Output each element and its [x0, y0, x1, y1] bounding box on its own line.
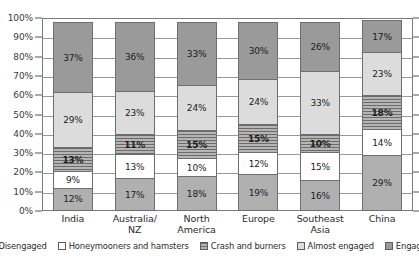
y-axis-tick-label: 100%	[8, 13, 33, 23]
bar-segment-label: 19%	[249, 188, 268, 198]
x-axis-category-label-line1: China	[369, 213, 396, 224]
bar-segment-label: 13%	[62, 155, 83, 165]
y-axis-right-tick-mark	[413, 133, 419, 134]
bar-segment[interactable]: 18%	[362, 95, 402, 130]
bar-segment-label: 12%	[249, 159, 268, 169]
y-axis-right-tick-mark	[413, 153, 419, 154]
legend-label: Disengaged	[0, 241, 47, 251]
y-axis-tick-label: 30%	[13, 148, 33, 158]
bar-segment-label: 15%	[311, 162, 330, 172]
bar-segment[interactable]: 13%	[115, 154, 155, 179]
y-axis-right-tick-mark	[413, 56, 419, 57]
bar-segment[interactable]: 29%	[53, 92, 93, 148]
bar-segment-label: 24%	[249, 97, 268, 107]
bar-segment[interactable]: 30%	[238, 22, 278, 80]
y-axis-tick-mark	[35, 95, 42, 96]
bar-segment-label: 33%	[311, 98, 330, 108]
bar-segment[interactable]: 12%	[238, 152, 278, 175]
bar-segment[interactable]: 16%	[300, 180, 340, 211]
stacked-bar-chart: 100%90%80%70%60%50%40%30%20%10%0% 12%9%1…	[0, 0, 419, 265]
bar-segment[interactable]: 33%	[300, 71, 340, 135]
y-axis: 100%90%80%70%60%50%40%30%20%10%0%	[0, 18, 42, 211]
bar-segment[interactable]: 15%	[238, 124, 278, 153]
bar-segment-label: 37%	[63, 53, 82, 63]
y-axis-right-tick-mark	[413, 75, 419, 76]
bar-segment[interactable]: 19%	[238, 174, 278, 211]
y-axis-tick-mark	[35, 211, 42, 212]
bar-column[interactable]: 29%14%18%23%17%	[362, 18, 402, 211]
chart-legend: DisengagedHoneymooners and hamstersCrash…	[0, 238, 419, 254]
bar-segment-label: 15%	[186, 140, 207, 150]
legend-item[interactable]: Crash and burners	[200, 241, 286, 251]
bar-column[interactable]: 19%12%15%24%30%	[238, 18, 278, 211]
bar-segment-label: 18%	[372, 108, 393, 118]
bar-segment[interactable]: 23%	[115, 91, 155, 135]
legend-item[interactable]: Almost engaged	[297, 241, 374, 251]
bar-column[interactable]: 17%13%11%23%36%	[115, 18, 155, 211]
bar-segment[interactable]: 15%	[300, 152, 340, 181]
bar-segment-label: 17%	[372, 32, 391, 42]
y-axis-right-tick-mark	[413, 37, 419, 38]
y-axis-right-tick-mark	[413, 211, 419, 212]
bar-segment-label: 9%	[66, 175, 80, 185]
y-axis-tick-label: 80%	[13, 52, 33, 62]
bar-segment[interactable]: 29%	[362, 155, 402, 211]
bar-segment[interactable]: 11%	[115, 134, 155, 155]
y-axis-tick-label: 0%	[19, 206, 33, 216]
y-axis-right-tick-mark	[413, 18, 419, 19]
bar-segment[interactable]: 17%	[115, 178, 155, 211]
legend-swatch	[385, 242, 393, 250]
bar-segment[interactable]: 33%	[177, 22, 217, 86]
bar-segment[interactable]: 10%	[300, 134, 340, 153]
y-axis-tick-label: 10%	[13, 187, 33, 197]
bar-segment[interactable]: 24%	[177, 85, 217, 131]
legend-label: Honeymooners and hamsters	[69, 241, 189, 251]
bar-segment-label: 29%	[372, 178, 391, 188]
bar-segment-label: 24%	[187, 103, 206, 113]
x-axis-category-label-line2: America	[166, 224, 228, 235]
x-axis-category-label-line2: NZ	[104, 224, 166, 235]
bar-segment-label: 33%	[187, 49, 206, 59]
bar-column[interactable]: 16%15%10%33%26%	[300, 18, 340, 211]
legend-item[interactable]: Disengaged	[0, 241, 47, 251]
bar-segment-label: 23%	[125, 108, 144, 118]
y-axis-tick-mark	[35, 153, 42, 154]
bar-segment[interactable]: 18%	[177, 176, 217, 211]
legend-swatch	[297, 242, 305, 250]
bar-column[interactable]: 18%10%15%24%33%	[177, 18, 217, 211]
y-axis-tick-mark	[35, 18, 42, 19]
legend-item[interactable]: Engaged	[385, 241, 419, 251]
y-axis-tick-label: 50%	[13, 110, 33, 120]
y-axis-tick-label: 90%	[13, 32, 33, 42]
y-axis-right-tick-mark	[413, 172, 419, 173]
bar-segment-label: 36%	[125, 52, 144, 62]
y-axis-tick-mark	[35, 114, 42, 115]
bar-segment[interactable]: 26%	[300, 22, 340, 72]
legend-label: Crash and burners	[211, 241, 286, 251]
y-axis-tick-label: 20%	[13, 167, 33, 177]
bar-segment[interactable]: 24%	[238, 79, 278, 125]
legend-item[interactable]: Honeymooners and hamsters	[58, 241, 189, 251]
bar-segment[interactable]: 9%	[53, 171, 93, 188]
bar-segment[interactable]: 37%	[53, 22, 93, 93]
bar-segment[interactable]: 36%	[115, 22, 155, 91]
bar-segment[interactable]: 23%	[362, 52, 402, 96]
y-axis-tick-label: 60%	[13, 90, 33, 100]
y-axis-tick-mark	[35, 172, 42, 173]
bar-segment[interactable]: 12%	[53, 188, 93, 211]
bar-segment-label: 30%	[249, 46, 268, 56]
plot-wrapper: 100%90%80%70%60%50%40%30%20%10%0% 12%9%1…	[0, 0, 419, 228]
y-axis-tick-mark	[35, 56, 42, 57]
y-axis-tick-label: 40%	[13, 129, 33, 139]
bar-segment[interactable]: 10%	[177, 158, 217, 177]
bar-segment[interactable]: 15%	[177, 130, 217, 159]
bar-segment[interactable]: 17%	[362, 20, 402, 53]
bar-segment-label: 18%	[187, 189, 206, 199]
y-axis-tick-mark	[35, 191, 42, 192]
bar-column[interactable]: 12%9%13%29%37%	[53, 18, 93, 211]
bar-segment-label: 17%	[125, 190, 144, 200]
y-axis-right-tick-mark	[413, 191, 419, 192]
x-axis-category-label-line1: Europe	[242, 213, 275, 224]
bar-segment[interactable]: 14%	[362, 129, 402, 156]
bar-segment[interactable]: 13%	[53, 147, 93, 172]
